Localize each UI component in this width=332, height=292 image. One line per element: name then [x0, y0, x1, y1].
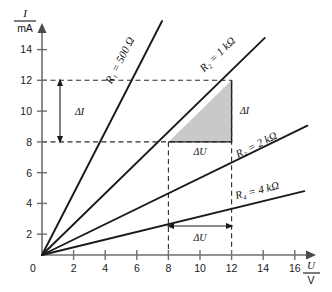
label-r3: R₃ = 2 kΩ [233, 129, 279, 160]
label-delta-u-bottom: ΔU [192, 232, 207, 243]
x-tick-label-12: 12 [226, 262, 238, 274]
y-tick-label-10: 10 [20, 105, 32, 117]
delta-i-left-dimension [57, 79, 63, 144]
x-axis-title: U V [303, 259, 320, 286]
x-tick-label-14: 14 [257, 262, 269, 274]
label-delta-i-right: ΔI [239, 105, 250, 116]
curve-r4 [42, 191, 304, 255]
y-tick-labels: 2 4 6 8 10 12 14 [20, 43, 32, 240]
origin-label: 0 [30, 262, 36, 274]
x-tick-label-16: 16 [289, 262, 301, 274]
y-tick-label-2: 2 [26, 228, 32, 240]
y-tick-label-12: 12 [20, 74, 32, 86]
delta-u-bottom-dimension [167, 223, 234, 229]
x-tick-label-6: 6 [134, 262, 140, 274]
y-tick-label-14: 14 [20, 43, 32, 55]
label-delta-u-top: ΔU [192, 146, 207, 157]
x-axis-unit: V [307, 274, 314, 286]
x-tick-label-8: 8 [165, 262, 171, 274]
y-tick-label-6: 6 [26, 167, 32, 179]
y-axis-symbol: I [22, 7, 28, 19]
delta-triangle [168, 80, 231, 142]
y-axis-title: I mA [14, 7, 36, 34]
y-axis-unit: mA [17, 22, 33, 34]
x-tick-label-4: 4 [102, 262, 108, 274]
guide-lines [42, 80, 232, 250]
y-tick-label-4: 4 [26, 197, 32, 209]
x-tick-label-2: 2 [71, 262, 77, 274]
label-r2: R₂ = 1 kΩ [196, 34, 237, 74]
curve-r2 [42, 38, 265, 255]
resistance-characteristic-chart: 2 4 6 8 10 12 14 16 0 2 4 6 8 10 12 14 I… [0, 0, 332, 292]
x-axis-symbol: U [307, 259, 316, 271]
label-delta-i-left: ΔI [74, 106, 85, 117]
label-r1: R₁ = 500 Ω [102, 35, 136, 86]
x-tick-labels: 2 4 6 8 10 12 14 16 0 [30, 262, 301, 274]
y-tick-label-8: 8 [26, 136, 32, 148]
x-tick-label-10: 10 [194, 262, 206, 274]
